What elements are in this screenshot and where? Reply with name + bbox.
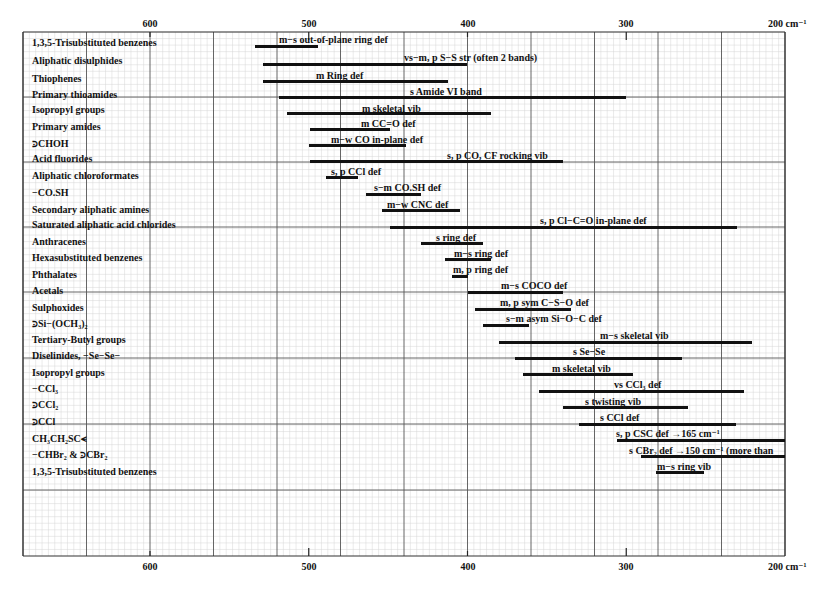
band-annotation: m−s skeletal vib	[600, 330, 668, 342]
row-label-group: Aliphatic disulphides	[32, 55, 122, 67]
row-label-group: Hexasubstituted benzenes	[32, 252, 142, 264]
band-annotation: s−m asym Si−O−C def	[506, 313, 602, 325]
row-label-group: Acetals	[32, 285, 63, 297]
row-label-group: Thiophenes	[32, 73, 81, 85]
top-tick-600: 600	[143, 18, 158, 29]
band-annotation: m−s out-of-plane ring def	[279, 34, 388, 46]
bottom-tick-200: 200 cm⁻¹	[768, 561, 807, 572]
row-label-group: Anthracenes	[32, 236, 86, 248]
band-annotation: m−w CNC def	[387, 199, 448, 211]
ir-band-chart: 600 500 400 300 200 cm⁻¹ 600 500 400 300…	[0, 0, 816, 590]
band-annotation: s CCl def	[600, 412, 639, 424]
chart-grid	[0, 0, 816, 590]
row-label-group: −CHBr₂ & ⪾CBr₂	[32, 449, 107, 461]
band-annotation: m−s ring vib	[657, 461, 711, 473]
bottom-tick-500: 500	[302, 561, 317, 572]
band-annotation: m skeletal vib	[552, 363, 611, 375]
bottom-tick-300: 300	[619, 561, 634, 572]
row-label-group: Sulphoxides	[32, 302, 84, 314]
band-annotation: m CC=O def	[361, 118, 416, 130]
row-label-group: Acid fluorides	[32, 153, 92, 165]
band-annotation: m−s COCO def	[501, 280, 567, 292]
band-annotation: s Amide VI band	[410, 86, 482, 98]
top-tick-200: 200 cm⁻¹	[768, 18, 807, 29]
row-label-group: Primary thioamides	[32, 89, 117, 101]
row-label-group: Tertiary-Butyl groups	[32, 334, 126, 346]
band-annotation: vs CCl₃ def	[614, 379, 661, 391]
band-annotation: vs−m, p S−S str (often 2 bands)	[404, 52, 537, 64]
row-label-group: Aliphatic chloroformates	[32, 170, 139, 182]
band-annotation: s ring def	[436, 232, 476, 244]
row-label-group: Primary amides	[32, 121, 101, 133]
bottom-tick-600: 600	[143, 561, 158, 572]
row-label-group: ⪾CHOH	[32, 138, 69, 150]
top-tick-400: 400	[461, 18, 476, 29]
top-tick-300: 300	[619, 18, 634, 29]
band-annotation: m−s ring def	[454, 248, 508, 260]
row-label-group: ⪾CCl	[32, 416, 55, 428]
band-annotation: s−m CO.SH def	[374, 182, 441, 194]
bottom-tick-400: 400	[461, 561, 476, 572]
row-label-group: CH₃CH₂SC⪪	[32, 433, 87, 445]
band-annotation: m, p sym C−S−O def	[500, 297, 589, 309]
row-label-group: Isopropyl groups	[32, 367, 105, 379]
row-label-group: −CCl₃	[32, 383, 58, 395]
band-annotation: s Se−Se	[573, 346, 605, 358]
row-label-group: Secondary aliphatic amines	[32, 204, 149, 216]
row-label-group: Saturated aliphatic acid chlorides	[32, 219, 176, 231]
row-label-group: ⪾CCl₂	[32, 399, 58, 411]
band-annotation: m, p ring def	[453, 264, 508, 276]
band-annotation: s, p CSC def →165 cm⁻¹	[616, 428, 720, 440]
band-annotation: s, p CO, CF rocking vib	[447, 150, 548, 162]
band-annotation: s, p Cl−C=O in-plane def	[540, 215, 647, 227]
band-annotation: m−w CO in-plane def	[331, 134, 423, 146]
band-annotation: s twisting vib	[585, 396, 641, 408]
band-annotation: s, p CCl def	[331, 166, 381, 178]
row-label-group: 1,3,5-Trisubstituted benzenes	[32, 466, 157, 478]
top-tick-500: 500	[302, 18, 317, 29]
band-annotation: s CBr₂ def →150 cm⁻¹ (more than	[629, 445, 773, 457]
row-label-group: ⪾Si−(OCH₃)₂	[32, 318, 87, 330]
row-label-group: 1,3,5-Trisubstituted benzenes	[32, 37, 157, 49]
row-label-group: Diselinides, −Se−Se−	[32, 350, 120, 362]
band-annotation: m Ring def	[316, 70, 363, 82]
row-label-group: −CO.SH	[32, 187, 69, 199]
band-annotation: m skeletal vib	[362, 103, 421, 115]
row-label-group: Phthalates	[32, 269, 77, 281]
row-label-group: Isopropyl groups	[32, 104, 105, 116]
